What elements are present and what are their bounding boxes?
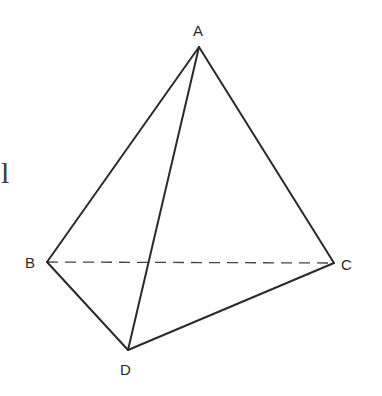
edge-ac (199, 47, 334, 263)
vertex-label-a: A (193, 22, 203, 39)
vertex-label-b: B (25, 254, 35, 271)
edge-bd (47, 262, 128, 350)
edge-dc (128, 263, 334, 350)
vertex-label-c: C (341, 256, 352, 273)
stray-mark: l (1, 156, 9, 189)
tetrahedron-diagram: l A B C D (0, 0, 382, 396)
edge-ad (128, 47, 199, 350)
edge-bc-hidden (47, 262, 334, 263)
vertex-label-d: D (120, 361, 131, 378)
edge-ab (47, 47, 199, 262)
